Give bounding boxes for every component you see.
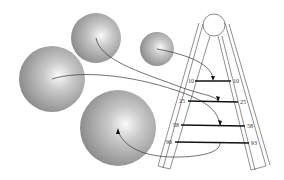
rung-label-right-4: 93 <box>251 140 257 146</box>
rung-label-right-3: 58 <box>247 123 253 129</box>
ladder <box>158 14 270 170</box>
diagram-canvas: 10 25 58 90 10 25 58 93 <box>0 0 284 180</box>
diagram-svg: 10 25 58 90 10 25 58 93 <box>0 0 284 180</box>
arrow-icon <box>211 76 215 81</box>
rungs <box>175 81 249 143</box>
rung-3 <box>181 125 245 126</box>
rung-label-left-1: 10 <box>188 78 194 84</box>
rung-4 <box>175 142 249 143</box>
rung-label-left-2: 25 <box>179 98 185 104</box>
rung-label-left-3: 58 <box>173 122 179 128</box>
rung-label-right-2: 25 <box>240 99 246 105</box>
rung-2 <box>188 101 238 102</box>
ladder-top-ring <box>203 14 225 36</box>
rung-label-right-1: 10 <box>233 78 239 84</box>
rung-label-left-4: 90 <box>166 139 172 145</box>
